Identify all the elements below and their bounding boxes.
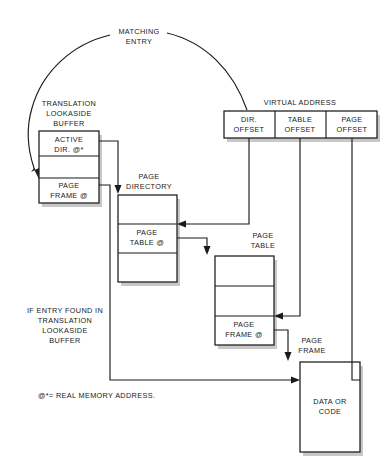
if-entry-found-line2: TRANSLATION: [38, 316, 92, 325]
tlb-cell-0-line2: DIR. @*: [54, 145, 83, 154]
va-cell-1-line1: TABLE: [288, 115, 312, 124]
diagram-canvas: MATCHING ENTRY TRANSLATION LOOKASIDE BUF…: [0, 0, 390, 473]
va-cell-0-line2: OFFSET: [234, 125, 265, 134]
virtual-address-caption: VIRTUAL ADDRESS: [264, 98, 337, 107]
va-cell-0-line1: DIR.: [241, 115, 257, 124]
real-memory-address-footnote: @*= REAL MEMORY ADDRESS.: [38, 391, 155, 400]
if-entry-found-line1: IF ENTRY FOUND IN: [27, 306, 103, 315]
address-translation-diagram: MATCHING ENTRY TRANSLATION LOOKASIDE BUF…: [0, 0, 390, 473]
tlb-cell-2-line1: PAGE: [58, 181, 79, 190]
tlb-cell-0-line1: ACTIVE: [55, 135, 83, 144]
page-table-caption-line1: PAGE: [252, 231, 273, 240]
page-table-box: PAGE FRAME @: [215, 256, 277, 349]
translation-lookaside-buffer-box: ACTIVE DIR. @* PAGE FRAME @: [39, 131, 102, 207]
data-or-code-box: DATA OR CODE: [300, 362, 363, 456]
data-or-code-line2: CODE: [319, 407, 341, 416]
tlb-caption-line2: LOOKASIDE: [46, 109, 91, 118]
pd-cell-1-line1: PAGE: [136, 228, 157, 237]
pt-cell-2-line1: PAGE: [233, 320, 254, 329]
page-table-caption-line2: TABLE: [251, 241, 275, 250]
connector-page-offset-to-data-or-code: [352, 138, 360, 380]
page-frame-caption-line2: FRAME: [298, 346, 325, 355]
connector-table-offset-to-page-table: [274, 138, 300, 320]
page-frame-caption-line1: PAGE: [301, 336, 322, 345]
page-directory-caption-line1: PAGE: [138, 172, 159, 181]
if-entry-found-line4: BUFFER: [49, 336, 80, 345]
connector-dir-offset-to-page-directory: [177, 138, 249, 228]
page-directory-box: PAGE TABLE @: [118, 195, 180, 286]
tlb-caption-line3: BUFFER: [53, 119, 84, 128]
va-cell-1-line2: OFFSET: [285, 125, 316, 134]
data-or-code-line1: DATA OR: [313, 397, 346, 406]
tlb-caption-line1: TRANSLATION: [42, 99, 96, 108]
matching-entry-label-line2: ENTRY: [126, 37, 152, 46]
pt-cell-2-line2: FRAME @: [225, 330, 262, 339]
virtual-address-box: DIR. OFFSET TABLE OFFSET PAGE OFFSET: [224, 111, 380, 142]
matching-entry-label-line1: MATCHING: [118, 27, 159, 36]
connector-page-table-at-to-page-table: [177, 238, 211, 255]
tlb-cell-2-line2: FRAME @: [50, 191, 87, 200]
pd-cell-1-line2: TABLE @: [130, 238, 164, 247]
if-entry-found-line3: LOOKASIDE: [42, 326, 87, 335]
matching-entry-arc-right: [167, 33, 247, 110]
va-cell-2-line1: PAGE: [341, 115, 362, 124]
page-directory-caption-line2: DIRECTORY: [126, 182, 172, 191]
va-cell-2-line2: OFFSET: [337, 125, 368, 134]
